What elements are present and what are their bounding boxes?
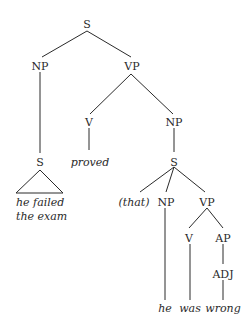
node-vp-complement: VP xyxy=(198,196,215,209)
word-wrong: wrong xyxy=(205,302,240,315)
node-vp-main: VP xyxy=(123,60,140,73)
word-he-failed: he failed xyxy=(16,196,64,209)
node-s-subject: S xyxy=(36,156,44,169)
word-that: (that) xyxy=(118,196,149,209)
word-proved: proved xyxy=(71,156,110,169)
node-np-subject: NP xyxy=(31,60,49,73)
node-np-object: NP xyxy=(165,116,183,129)
node-adj: ADJ xyxy=(211,268,233,281)
node-np-complement: NP xyxy=(157,196,175,209)
node-v-main: V xyxy=(84,116,94,129)
word-was: was xyxy=(179,302,201,315)
syntax-tree-diagram: S NP VP S V NP S NP VP V AP ADJ he faile… xyxy=(0,0,250,332)
word-the-exam: the exam xyxy=(16,210,67,223)
node-s-root: S xyxy=(83,18,91,31)
node-s-complement: S xyxy=(170,156,178,169)
node-v-complement: V xyxy=(184,232,194,245)
word-he: he xyxy=(158,302,172,315)
node-ap: AP xyxy=(214,232,231,245)
